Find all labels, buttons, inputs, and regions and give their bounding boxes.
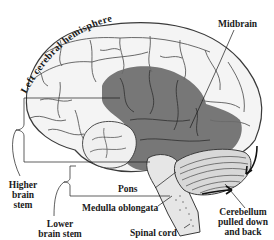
cerebellum bbox=[174, 149, 251, 195]
higher-line-2: brain bbox=[5, 190, 41, 200]
cerebellum-line-2: pulled down bbox=[214, 217, 272, 227]
label-lower-brain-stem: Lower brain stem bbox=[32, 219, 88, 239]
higher-line-3: stem bbox=[5, 200, 41, 210]
cerebellum-line-3: and back bbox=[214, 227, 272, 237]
label-pons: Pons bbox=[118, 184, 138, 194]
label-higher-brain-stem: Higher brain stem bbox=[5, 180, 41, 210]
lower-line-2: brain stem bbox=[32, 229, 88, 239]
temporal-lobe bbox=[83, 121, 137, 168]
label-cerebellum: Cerebellum pulled down and back bbox=[214, 207, 272, 237]
label-medulla-oblongata: Medulla oblongata bbox=[82, 203, 158, 213]
higher-line-1: Higher bbox=[5, 180, 41, 190]
label-spinal-cord: Spinal cord bbox=[130, 228, 177, 238]
label-midbrain: Midbrain bbox=[218, 19, 257, 29]
cerebellum-line-1: Cerebellum bbox=[214, 207, 272, 217]
lower-line-1: Lower bbox=[32, 219, 88, 229]
